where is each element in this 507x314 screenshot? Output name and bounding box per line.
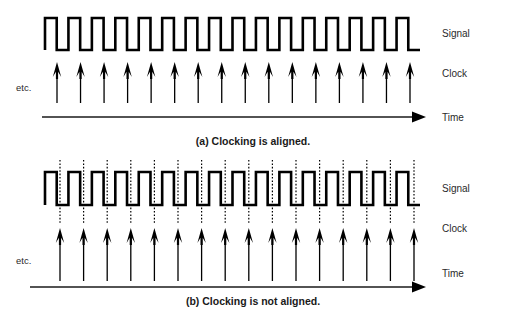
clock-label-a: Clock xyxy=(442,68,468,79)
etc-label-b: etc. xyxy=(16,255,31,266)
panel-caption-b: (b) Clocking is not aligned. xyxy=(186,295,320,307)
time-label-b: Time xyxy=(442,268,464,279)
signal-label-b: Signal xyxy=(442,183,470,194)
clock-label-b: Clock xyxy=(442,223,468,234)
clock-alignment-figure: Signal Clock Time etc. (a) Clocking is a… xyxy=(0,0,507,314)
figure-background xyxy=(0,0,507,314)
signal-label-a: Signal xyxy=(442,28,470,39)
panel-caption-a: (a) Clocking is aligned. xyxy=(196,135,310,147)
time-label-a: Time xyxy=(442,112,464,123)
etc-label-a: etc. xyxy=(16,82,31,93)
figure-canvas: Signal Clock Time etc. (a) Clocking is a… xyxy=(0,0,507,314)
